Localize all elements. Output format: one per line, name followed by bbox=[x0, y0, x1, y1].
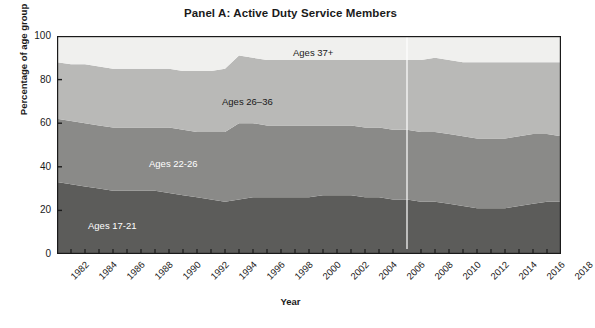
x-tick-label: 2000 bbox=[320, 259, 343, 282]
series-label-ages-26-36: Ages 26–36 bbox=[222, 96, 273, 107]
series-label-ages-22-26: Ages 22-26 bbox=[149, 158, 198, 169]
x-tick-label: 2002 bbox=[348, 259, 371, 282]
x-tick-label: 1990 bbox=[180, 259, 203, 282]
y-tick-label: 40 bbox=[19, 161, 51, 172]
y-tick-label: 20 bbox=[19, 204, 51, 215]
x-tick-label: 2012 bbox=[488, 259, 511, 282]
x-tick-label: 1994 bbox=[236, 259, 259, 282]
y-tick-label: 0 bbox=[19, 248, 51, 259]
x-tick-label: 1998 bbox=[292, 259, 315, 282]
x-tick-label: 1982 bbox=[68, 259, 91, 282]
x-tick-label: 2004 bbox=[376, 259, 399, 282]
plot-area: Ages 37+ Ages 26–36 Ages 22-26 Ages 17-2… bbox=[57, 36, 561, 254]
x-tick-label: 1986 bbox=[124, 259, 147, 282]
x-tick-label: 2008 bbox=[432, 259, 455, 282]
x-tick-label: 2006 bbox=[404, 259, 427, 282]
chart-title: Panel A: Active Duty Service Members bbox=[0, 7, 581, 19]
x-axis-label: Year bbox=[0, 296, 581, 307]
series-label-ages-37-plus: Ages 37+ bbox=[293, 47, 333, 58]
x-tick-label: 1984 bbox=[96, 259, 119, 282]
y-axis-label: Percentage of age group bbox=[18, 0, 29, 150]
series-label-ages-17-21: Ages 17-21 bbox=[88, 220, 137, 231]
x-tick-label: 2014 bbox=[516, 259, 539, 282]
x-tick-label: 2018 bbox=[572, 259, 595, 282]
x-tick-label: 1996 bbox=[264, 259, 287, 282]
x-tick-label: 2010 bbox=[460, 259, 483, 282]
x-tick-label: 1988 bbox=[152, 259, 175, 282]
x-tick-label: 1992 bbox=[208, 259, 231, 282]
x-tick-label: 2016 bbox=[544, 259, 567, 282]
